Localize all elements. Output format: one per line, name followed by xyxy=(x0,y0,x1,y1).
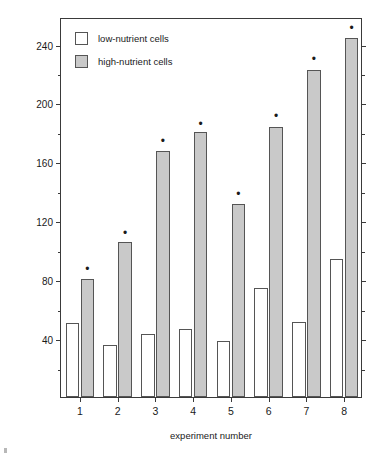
y-tick-major xyxy=(56,222,61,223)
plot-area: 4080120160200240 12345678 •••••••• low-n… xyxy=(60,18,362,398)
x-tick xyxy=(231,397,232,402)
y-tick-minor-right xyxy=(361,311,365,312)
y-tick-minor-right xyxy=(361,193,365,194)
y-tick-major-right xyxy=(361,46,366,47)
bar-low-nutrient xyxy=(330,259,344,397)
bar-low-nutrient xyxy=(141,334,155,397)
bar-high-nutrient xyxy=(269,127,283,397)
legend-swatch-icon-low xyxy=(75,32,88,45)
legend-item-high-nutrient: high-nutrient cells xyxy=(75,52,172,70)
y-tick-label: 80 xyxy=(42,276,53,287)
scan-artifact xyxy=(4,448,7,453)
x-tick-label: 5 xyxy=(228,405,234,417)
bar-high-nutrient xyxy=(345,38,359,397)
y-tick-minor-right xyxy=(361,134,365,135)
bar-high-nutrient xyxy=(194,132,208,397)
y-tick-label: 240 xyxy=(36,40,53,51)
x-tick-label: 3 xyxy=(152,405,158,417)
bar-high-nutrient xyxy=(156,151,170,397)
x-tick-label: 1 xyxy=(77,405,83,417)
y-tick-minor-right xyxy=(361,252,365,253)
bar-high-nutrient xyxy=(118,242,132,397)
significance-marker: • xyxy=(236,188,240,200)
bar-low-nutrient xyxy=(254,288,268,397)
bar-high-nutrient xyxy=(81,279,95,397)
x-tick xyxy=(155,397,156,402)
x-tick-label: 7 xyxy=(303,405,309,417)
y-tick-label: 120 xyxy=(36,217,53,228)
significance-marker: • xyxy=(85,263,89,275)
x-tick-label: 4 xyxy=(190,405,196,417)
y-tick-major-right xyxy=(361,163,366,164)
y-tick-minor xyxy=(58,252,62,253)
bar-high-nutrient xyxy=(232,204,246,397)
bar-chart-figure: mean ng protein eaten per copepod per ho… xyxy=(0,0,387,455)
y-tick-minor-right xyxy=(361,75,365,76)
y-tick-minor xyxy=(58,134,62,135)
y-tick-major xyxy=(56,340,61,341)
bar-low-nutrient xyxy=(66,323,80,397)
legend-label-low: low-nutrient cells xyxy=(98,33,169,44)
x-axis-title: experiment number xyxy=(60,430,362,441)
x-tick-label: 2 xyxy=(115,405,121,417)
significance-marker: • xyxy=(274,110,278,122)
x-tick xyxy=(193,397,194,402)
x-tick xyxy=(344,397,345,402)
legend-item-low-nutrient: low-nutrient cells xyxy=(75,29,172,47)
y-tick-minor xyxy=(58,370,62,371)
y-tick-major-right xyxy=(361,104,366,105)
significance-marker: • xyxy=(161,135,165,147)
x-tick xyxy=(306,397,307,402)
x-tick xyxy=(118,397,119,402)
x-tick xyxy=(80,397,81,402)
bar-low-nutrient xyxy=(292,322,306,397)
y-tick-major xyxy=(56,281,61,282)
x-tick xyxy=(269,397,270,402)
y-tick-major xyxy=(56,46,61,47)
bar-low-nutrient xyxy=(217,341,231,397)
significance-marker: • xyxy=(350,22,354,34)
y-tick-major-right xyxy=(361,281,366,282)
y-tick-minor-right xyxy=(361,370,365,371)
bar-low-nutrient xyxy=(103,345,117,397)
significance-marker: • xyxy=(123,227,127,239)
y-tick-major xyxy=(56,163,61,164)
significance-marker: • xyxy=(312,53,316,65)
bar-low-nutrient xyxy=(179,329,193,397)
y-tick-major-right xyxy=(361,340,366,341)
y-tick-minor xyxy=(58,193,62,194)
y-tick-minor xyxy=(58,75,62,76)
legend: low-nutrient cells high-nutrient cells xyxy=(75,29,172,75)
legend-label-high: high-nutrient cells xyxy=(98,56,172,67)
y-tick-label: 40 xyxy=(42,335,53,346)
y-tick-major xyxy=(56,104,61,105)
x-tick-label: 8 xyxy=(341,405,347,417)
y-tick-label: 160 xyxy=(36,158,53,169)
x-tick-label: 6 xyxy=(266,405,272,417)
y-tick-label: 200 xyxy=(36,99,53,110)
legend-swatch-icon-high xyxy=(75,55,88,68)
y-tick-major-right xyxy=(361,222,366,223)
significance-marker: • xyxy=(199,118,203,130)
bar-high-nutrient xyxy=(307,70,321,397)
y-tick-minor xyxy=(58,311,62,312)
